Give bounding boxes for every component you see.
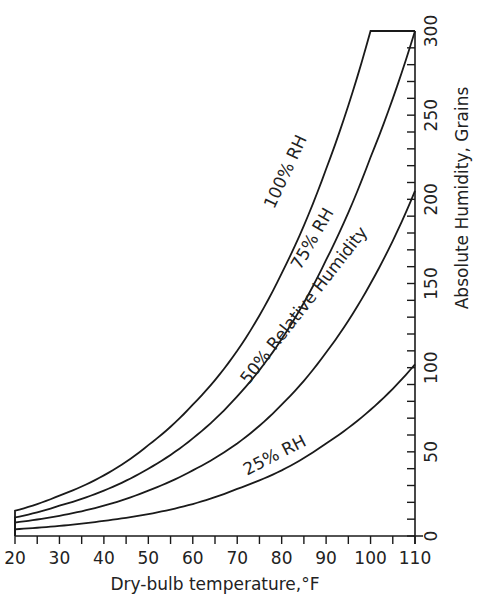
y-tick-label: 50	[421, 441, 441, 463]
x-tick-label: 80	[271, 548, 293, 568]
label-100-rh: 100% RH	[259, 132, 310, 212]
rh-100-curve	[15, 31, 415, 536]
x-tick-label: 100	[354, 548, 386, 568]
rh-25-curve	[15, 364, 415, 536]
y-tick-label: 200	[421, 183, 441, 215]
x-tick-label: 60	[182, 548, 204, 568]
x-tick-label: 50	[138, 548, 160, 568]
axes: 2030405060708090100110 05010015020025030…	[4, 15, 441, 568]
y-tick-label: 300	[421, 15, 441, 47]
curve-labels: 100% RH75% RH50% Relative Humidity25% RH	[236, 132, 371, 480]
y-tick-label: 100	[421, 351, 441, 383]
x-tick-label: 90	[315, 548, 337, 568]
rh-75-curve	[15, 31, 415, 536]
x-tick-label: 30	[49, 548, 71, 568]
label-25-rh: 25% RH	[240, 431, 309, 480]
y-tick-label: 0	[421, 531, 441, 542]
x-axis-ticks: 2030405060708090100110	[4, 536, 431, 568]
y-tick-label: 250	[421, 99, 441, 131]
rh-curves	[15, 31, 415, 536]
y-axis-title: Absolute Humidity, Grains	[452, 87, 472, 310]
x-axis-title: Dry-bulb temperature,°F	[111, 574, 320, 594]
x-tick-label: 40	[93, 548, 115, 568]
x-tick-label: 20	[4, 548, 26, 568]
x-tick-label: 110	[399, 548, 431, 568]
x-tick-label: 70	[226, 548, 248, 568]
y-axis-ticks: 050100150200250300	[407, 15, 441, 542]
psychrometric-chart: 2030405060708090100110 05010015020025030…	[0, 0, 485, 614]
y-tick-label: 150	[421, 267, 441, 299]
